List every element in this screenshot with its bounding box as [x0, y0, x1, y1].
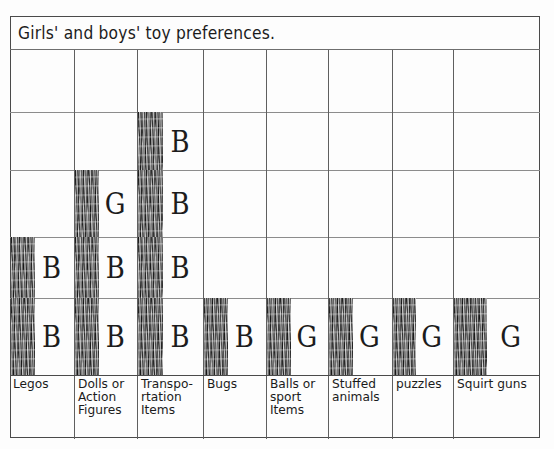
- bar-cell: G: [392, 298, 453, 375]
- bar-column[interactable]: BBG: [74, 50, 137, 375]
- bar-cell: B: [137, 170, 203, 237]
- bar-column[interactable]: BBBB: [137, 50, 203, 375]
- chart-title-band: Girls' and boys' toy preferences.: [10, 16, 540, 50]
- bar-cell-letter: G: [417, 321, 452, 351]
- category-label-6: Stuffed animals: [328, 376, 392, 439]
- bar-fill-scribble: [329, 298, 353, 375]
- bar-fill-scribble: [75, 170, 99, 237]
- bar-cell-letter: G: [354, 321, 391, 351]
- bar-fill-scribble: [138, 237, 163, 298]
- bar-fill-scribble: [11, 237, 35, 298]
- bar-cell-letter: B: [164, 126, 202, 156]
- category-label-3: Transpo-rtation Items: [137, 376, 203, 439]
- category-label-band: LegosDolls or Action FiguresTranspo-rtat…: [10, 375, 540, 438]
- bar-cell-letter: G: [100, 188, 137, 218]
- bar-column[interactable]: BB: [10, 50, 74, 375]
- bar-cell-letter: B: [36, 252, 73, 282]
- bar-cell-letter: B: [164, 188, 202, 218]
- bar-fill-scribble: [393, 298, 416, 375]
- bar-fill-scribble: [454, 298, 487, 375]
- bar-cell-letter: B: [164, 321, 202, 351]
- bar-cell: B: [10, 298, 74, 375]
- bar-cell: G: [74, 170, 137, 237]
- bar-fill-scribble: [138, 298, 163, 375]
- chart-plot-area: BBBBGBBBBBGGGG: [10, 50, 540, 375]
- bar-cell: G: [328, 298, 392, 375]
- bar-cell-letter: B: [164, 252, 202, 282]
- bar-cell-letter: B: [100, 321, 137, 351]
- bar-cell: B: [10, 237, 74, 298]
- bar-cell: G: [266, 298, 328, 375]
- bar-fill-scribble: [75, 298, 99, 375]
- bar-column[interactable]: G: [328, 50, 392, 375]
- chart-sheet: Girls' and boys' toy preferences. BBBBGB…: [0, 0, 554, 449]
- category-label-2: Dolls or Action Figures: [74, 376, 137, 439]
- bar-cell-letter: B: [100, 252, 137, 282]
- bar-fill-scribble: [138, 170, 163, 237]
- bar-cell: G: [453, 298, 540, 375]
- bar-fill-scribble: [138, 112, 163, 170]
- category-label-4: Bugs: [203, 376, 266, 439]
- bar-cell: B: [203, 298, 266, 375]
- bar-column[interactable]: G: [453, 50, 540, 375]
- category-label-5: Balls or sport Items: [266, 376, 328, 439]
- bar-cell-letter: B: [229, 321, 266, 351]
- bar-cell-letter: B: [36, 321, 73, 351]
- bar-cell: B: [74, 237, 137, 298]
- category-label-7: puzzles: [392, 376, 453, 439]
- bar-fill-scribble: [267, 298, 291, 375]
- bar-cell: B: [137, 237, 203, 298]
- bar-cell: B: [74, 298, 137, 375]
- category-label-1: Legos: [10, 376, 74, 439]
- bar-column[interactable]: B: [203, 50, 266, 375]
- bar-fill-scribble: [75, 237, 99, 298]
- page-title: Girls' and boys' toy preferences.: [10, 22, 275, 42]
- bar-fill-scribble: [11, 298, 35, 375]
- bar-cell-letter: G: [291, 321, 327, 351]
- bar-cell: B: [137, 112, 203, 170]
- category-label-8: Squirt guns: [453, 376, 540, 439]
- bar-column[interactable]: G: [392, 50, 453, 375]
- bar-fill-scribble: [204, 298, 228, 375]
- bar-cell-letter: G: [488, 321, 539, 351]
- bar-cell: B: [137, 298, 203, 375]
- bar-column[interactable]: G: [266, 50, 328, 375]
